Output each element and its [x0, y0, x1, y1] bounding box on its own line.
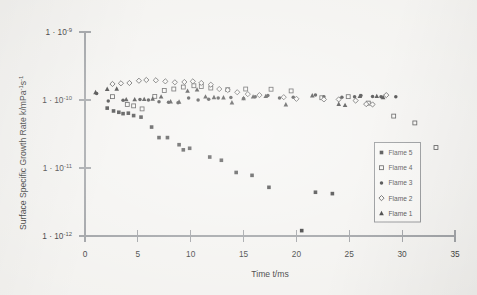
- x-axis-title: Time t/ms: [251, 269, 288, 279]
- data-point: [112, 109, 116, 113]
- data-point: [374, 94, 379, 98]
- data-point: [153, 94, 157, 98]
- data-point: [278, 96, 282, 100]
- data-point: [413, 121, 417, 125]
- data-point: [132, 97, 137, 101]
- chart-svg: 1 · 10-9 1 · 10-10 1 · 10-11 1 · 10-12 0…: [0, 0, 477, 295]
- data-point: [314, 190, 318, 194]
- data-point: [434, 146, 438, 150]
- data-point: [177, 143, 181, 147]
- data-point: [153, 78, 158, 83]
- data-point: [216, 96, 220, 100]
- data-point: [192, 84, 196, 88]
- data-point: [346, 95, 350, 99]
- data-point: [392, 114, 396, 118]
- data-point: [136, 78, 141, 83]
- legend-marker-filled-square-icon: [380, 151, 384, 155]
- data-point: [138, 98, 142, 102]
- data-point: [150, 125, 154, 129]
- series-flame-2: [110, 77, 389, 107]
- data-point: [235, 90, 240, 95]
- data-point: [162, 89, 166, 93]
- data-point: [147, 98, 151, 102]
- y-tick-exp-2: -11: [64, 163, 72, 169]
- data-point: [394, 95, 398, 99]
- legend[interactable]: Flame 5Flame 4Flame 3Flame 2Flame 1: [375, 143, 421, 223]
- data-point: [187, 96, 191, 100]
- svg-text:1 · 10-11: 1 · 10-11: [43, 163, 72, 173]
- y-axis-title: Surface Specific Growth Rate k/mPa-1s-1: [18, 76, 28, 230]
- data-point: [257, 93, 262, 98]
- y-tick-exp-3: -12: [63, 231, 72, 237]
- y-tick-mantissa-2: 1 · 10: [43, 163, 65, 173]
- x-tick-label-5: 25: [345, 249, 355, 259]
- legend-label: Flame 2: [389, 195, 413, 202]
- data-point: [182, 148, 186, 152]
- data-point: [182, 79, 187, 84]
- data-point: [289, 89, 293, 93]
- x-tick-label-1: 5: [135, 249, 140, 259]
- data-point: [384, 93, 389, 98]
- data-point: [114, 86, 119, 90]
- legend-label: Flame 4: [389, 164, 413, 171]
- y-tick-mantissa-3: 1 · 10: [42, 231, 64, 241]
- data-point: [207, 97, 211, 101]
- data-point: [121, 99, 125, 103]
- data-point: [110, 81, 115, 86]
- y-tick-mantissa-0: 1 · 10: [46, 27, 68, 37]
- data-point: [125, 103, 129, 107]
- data-point: [281, 95, 286, 100]
- data-point: [157, 100, 161, 104]
- y-tick-exp-1: -10: [63, 95, 72, 101]
- y-tick-labels: 1 · 10-9 1 · 10-10 1 · 10-11 1 · 10-12: [42, 27, 72, 241]
- x-tick-label-7: 35: [450, 249, 460, 259]
- data-point: [269, 87, 273, 91]
- data-point: [132, 104, 136, 108]
- data-point: [172, 80, 177, 85]
- data-point: [166, 136, 170, 140]
- y-axis-title-sup2: -1: [18, 76, 24, 81]
- data-point: [105, 87, 110, 91]
- x-tick-label-2: 10: [186, 249, 196, 259]
- data-point: [124, 97, 129, 101]
- data-point: [314, 93, 318, 97]
- data-point: [220, 158, 224, 162]
- chart-screenshot: 1 · 10-9 1 · 10-10 1 · 10-11 1 · 10-12 0…: [0, 0, 477, 295]
- data-point: [185, 88, 190, 92]
- data-point: [208, 155, 212, 159]
- series-flame-5: [105, 106, 334, 232]
- data-point: [142, 97, 147, 101]
- legend-marker-filled-circle-icon: [380, 181, 384, 185]
- data-point: [181, 85, 185, 89]
- y-tick-mantissa-1: 1 · 10: [42, 95, 64, 105]
- data-point: [250, 174, 254, 178]
- data-point: [139, 115, 143, 119]
- x-tick-label-4: 20: [292, 249, 302, 259]
- data-point: [127, 111, 131, 115]
- x-tick-labels: 0 5 10 15 20 25 30 35: [83, 249, 460, 259]
- data-point: [221, 95, 226, 99]
- data-point: [188, 146, 192, 150]
- series-flame-4: [111, 84, 438, 150]
- data-point: [159, 94, 164, 98]
- data-point: [244, 87, 248, 91]
- data-point: [157, 136, 161, 140]
- data-point: [230, 100, 235, 104]
- data-point: [217, 86, 222, 91]
- legend-label: Flame 5: [389, 149, 413, 156]
- data-point: [336, 102, 341, 106]
- data-point: [196, 98, 200, 102]
- data-point: [121, 112, 125, 116]
- x-tick-label-3: 15: [239, 249, 249, 259]
- data-point: [118, 81, 123, 86]
- data-point: [212, 95, 217, 99]
- data-point: [105, 106, 109, 110]
- data-point: [163, 79, 168, 84]
- x-tick-label-6: 30: [397, 249, 407, 259]
- y-tick-exp-0: -9: [67, 27, 72, 33]
- data-point: [111, 95, 115, 99]
- data-point: [371, 95, 375, 99]
- legend-marker-open-square-icon: [380, 166, 384, 170]
- data-point: [234, 171, 238, 175]
- y-axis-title-main: Surface Specific Growth Rate k/mPa: [18, 90, 28, 230]
